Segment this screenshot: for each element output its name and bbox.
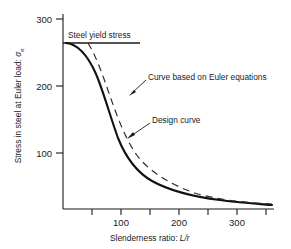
x-axis-title-text: Slenderness ratio: <box>110 233 180 243</box>
y-axis-title-text: Stress in steel at Euler load: <box>13 57 23 164</box>
plot-area: 300 200 100 100 200 300 <box>0 0 291 249</box>
engineering-chart: 300 200 100 100 200 300 Steel yield stre… <box>0 0 291 249</box>
sigma-subscript: e <box>19 48 25 51</box>
euler-equations-label: Curve based on Euler equations <box>148 73 267 81</box>
y-tick-label-100: 100 <box>36 148 52 159</box>
y-tick-label-300: 300 <box>36 14 52 25</box>
steel-yield-stress-label: Steel yield stress <box>68 31 131 39</box>
sigma-symbol: σ <box>13 52 23 57</box>
design-curve-label: Design curve <box>152 116 200 124</box>
x-tick-label-100: 100 <box>113 217 129 228</box>
design-arrow-head <box>127 132 135 139</box>
y-axis-title: Stress in steel at Euler load: σe <box>13 26 25 186</box>
y-tick-label-200: 200 <box>36 81 52 92</box>
x-tick-label-200: 200 <box>171 217 187 228</box>
slenderness-symbol: L/r <box>180 233 190 243</box>
x-axis-title: Slenderness ratio: L/r <box>110 233 190 243</box>
euler-arrow-head <box>129 90 136 96</box>
x-tick-label-300: 300 <box>229 217 245 228</box>
